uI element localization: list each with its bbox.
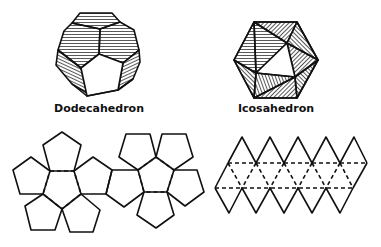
dodecahedron-label: Dodecahedron <box>54 102 144 115</box>
icosahedron-label: Icosahedron <box>238 102 314 115</box>
icosahedron-solid <box>234 22 318 98</box>
polyhedra-figure: Dodecahedron Icosahedron <box>0 0 381 247</box>
dodecahedron-solid <box>56 13 140 96</box>
dodecahedron-net <box>13 132 204 232</box>
icosahedron-net <box>215 137 367 213</box>
